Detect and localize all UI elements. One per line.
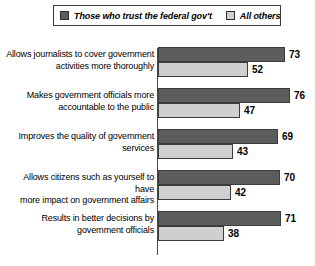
- bar-all-others-wrapper: [158, 185, 231, 200]
- category-label: Allows journalists to cover government a…: [4, 49, 154, 72]
- bar-value-all-others: 43: [237, 146, 248, 157]
- bar-all-others: [158, 144, 233, 159]
- bar-trust: [158, 170, 280, 185]
- bar-all-others: [158, 62, 248, 77]
- bar-all-others: [158, 226, 224, 241]
- grouped-bar-chart: Those who trust the federal gov't All ot…: [0, 0, 315, 266]
- category-label-line1: Allows journalists to cover government: [6, 49, 154, 59]
- plot-area: Allows journalists to cover government a…: [0, 46, 315, 258]
- bar-trust-wrapper: [158, 129, 278, 144]
- dark-gray-swatch-icon: [60, 11, 69, 20]
- bar-value-trust: 71: [285, 213, 296, 224]
- bar-all-others-wrapper: [158, 226, 224, 241]
- bar-group: Allows journalists to cover government a…: [0, 46, 315, 78]
- bar-value-all-others: 42: [235, 187, 246, 198]
- bar-trust: [158, 88, 290, 103]
- bar-group: Makes government officials more accounta…: [0, 87, 315, 119]
- category-label-line2: government officials: [77, 225, 154, 235]
- legend-label-all-others: All others: [240, 11, 281, 21]
- bar-group: Allows citizens such as yourself to have…: [0, 169, 315, 201]
- bar-value-trust: 73: [289, 49, 300, 60]
- category-label: Results in better decisions by governmen…: [4, 213, 154, 236]
- bar-trust: [158, 129, 278, 144]
- category-label-line1: Improves the quality of government: [19, 131, 154, 141]
- bar-group: Results in better decisions by governmen…: [0, 210, 315, 242]
- category-label-line2: accountable to the public: [58, 102, 154, 112]
- bar-all-others: [158, 185, 231, 200]
- legend-entry-trust: Those who trust the federal gov't: [60, 11, 212, 21]
- bar-all-others-wrapper: [158, 62, 248, 77]
- bar-trust-wrapper: [158, 47, 285, 62]
- category-label: Improves the quality of government servi…: [4, 131, 154, 154]
- bar-all-others-wrapper: [158, 144, 233, 159]
- bar-value-all-others: 52: [252, 64, 263, 75]
- legend-label-trust: Those who trust the federal gov't: [74, 11, 212, 21]
- bar-trust-wrapper: [158, 211, 281, 226]
- category-label-line2: services: [122, 143, 154, 153]
- bar-all-others: [158, 103, 240, 118]
- category-label-line2: more impact on government affairs: [20, 195, 154, 205]
- bar-trust: [158, 211, 281, 226]
- bar-group: Improves the quality of government servi…: [0, 128, 315, 160]
- category-label-line2: activities more thoroughly: [56, 61, 154, 71]
- bar-value-trust: 69: [282, 131, 293, 142]
- category-label: Allows citizens such as yourself to have…: [4, 172, 154, 207]
- bar-trust-wrapper: [158, 88, 290, 103]
- category-label: Makes government officials more accounta…: [4, 90, 154, 113]
- category-label-line1: Makes government officials more: [27, 90, 154, 100]
- bar-trust-wrapper: [158, 170, 280, 185]
- category-label-line1: Results in better decisions by: [41, 213, 154, 223]
- bar-value-all-others: 38: [228, 228, 239, 239]
- bar-value-trust: 76: [294, 90, 305, 101]
- chart-legend: Those who trust the federal gov't All ot…: [53, 5, 281, 26]
- bar-trust: [158, 47, 285, 62]
- bar-value-trust: 70: [284, 172, 295, 183]
- bar-value-all-others: 47: [244, 105, 255, 116]
- light-gray-swatch-icon: [226, 11, 235, 20]
- legend-entry-all-others: All others: [226, 11, 281, 21]
- bar-all-others-wrapper: [158, 103, 240, 118]
- category-label-line1: Allows citizens such as yourself to have: [23, 172, 154, 194]
